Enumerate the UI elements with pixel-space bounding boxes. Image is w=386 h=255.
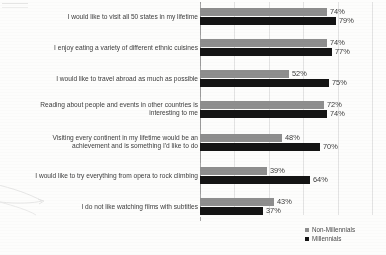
legend-label: Non-Millennials <box>312 226 355 233</box>
category-label: I would like to visit all 50 states in m… <box>12 13 198 21</box>
chart-container: I would like to visit all 50 states in m… <box>0 0 386 255</box>
bar-value-millennials: 74% <box>330 109 345 118</box>
bar-non-millennials <box>200 39 327 47</box>
bar-value-millennials: 37% <box>266 206 281 215</box>
bar-millennials <box>200 79 329 87</box>
category-label: I would like to try everything from oper… <box>12 172 198 180</box>
bar-value-millennials: 77% <box>335 47 350 56</box>
legend-item-millennials[interactable]: Millennials <box>305 235 355 242</box>
bar-value-non-millennials: 48% <box>285 133 300 142</box>
bar-millennials <box>200 110 327 118</box>
category-label-line: Visiting every continent in my lifetime … <box>12 134 198 142</box>
category-label-line: achievement and is something I'd like to… <box>12 142 198 150</box>
bar-non-millennials <box>200 167 267 175</box>
bar-value-millennials: 75% <box>332 78 347 87</box>
bar-non-millennials <box>200 8 327 16</box>
category-label-line: I enjoy eating a variety of different et… <box>54 44 198 51</box>
axis-tick <box>200 217 201 221</box>
bar-value-millennials: 64% <box>313 175 328 184</box>
category-label: I do not like watching films with subtit… <box>12 203 198 211</box>
category-label: Visiting every continent in my lifetime … <box>12 134 198 151</box>
bar-millennials <box>200 176 310 184</box>
bar-value-millennials: 70% <box>323 142 338 151</box>
category-label-line: Reading about people and events in other… <box>12 101 198 109</box>
bar-non-millennials <box>200 134 282 142</box>
scan-artifact-top <box>2 3 28 8</box>
category-label-line: I would like to visit all 50 states in m… <box>68 13 198 20</box>
gridline-100 <box>372 2 373 215</box>
legend-swatch-icon <box>305 237 309 241</box>
category-label-line: I do not like watching films with subtit… <box>81 203 198 210</box>
chart-legend: Non-Millennials Millennials <box>305 226 355 244</box>
category-label: Reading about people and events in other… <box>12 101 198 118</box>
bar-value-non-millennials: 74% <box>330 7 345 16</box>
legend-swatch-icon <box>305 228 309 232</box>
legend-label: Millennials <box>312 235 341 242</box>
bar-non-millennials <box>200 198 274 206</box>
category-label: I enjoy eating a variety of different et… <box>12 44 198 52</box>
category-label-line: I would like to try everything from oper… <box>35 172 198 179</box>
scan-artifact-curve <box>0 182 56 218</box>
bar-value-non-millennials: 72% <box>327 100 342 109</box>
bar-non-millennials <box>200 101 324 109</box>
bar-value-non-millennials: 43% <box>277 197 292 206</box>
bar-value-non-millennials: 74% <box>330 38 345 47</box>
bar-value-non-millennials: 39% <box>270 166 285 175</box>
bar-value-millennials: 79% <box>339 16 354 25</box>
legend-item-non-millennials[interactable]: Non-Millennials <box>305 226 355 233</box>
bar-millennials <box>200 48 332 56</box>
bar-value-non-millennials: 52% <box>292 69 307 78</box>
bar-millennials <box>200 207 263 215</box>
category-label-line: interesting to me <box>12 109 198 117</box>
bar-millennials <box>200 17 336 25</box>
bar-non-millennials <box>200 70 289 78</box>
category-label: I would like to travel abroad as much as… <box>12 75 198 83</box>
bar-millennials <box>200 143 320 151</box>
category-label-line: I would like to travel abroad as much as… <box>56 75 198 82</box>
